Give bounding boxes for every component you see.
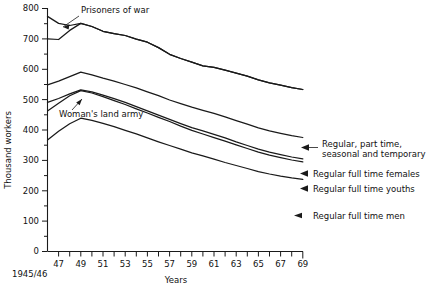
x-tick-label: 47 xyxy=(53,259,64,269)
series-line-regular-full-time-men xyxy=(48,118,303,179)
annotation-label-prisoners-of-war: Prisoners of war xyxy=(81,5,150,15)
callout-label-regular-full-time-men: Regular full time men xyxy=(313,211,405,221)
callout-regular-full-time-men: Regular full time men xyxy=(294,211,405,221)
x-tick-label: 69 xyxy=(297,259,308,269)
chart-plot-area: 0 100 200 300 400 500 600 700 800 xyxy=(0,0,431,292)
y-tick-label: 0 xyxy=(34,246,39,256)
y-tick-label: 400 xyxy=(23,125,39,135)
arrow-head-icon xyxy=(300,185,308,191)
callout-regular-full-time-youths: Regular full time youths xyxy=(300,184,415,194)
x-tick-label: 51 xyxy=(98,259,109,269)
y-tick-label: 500 xyxy=(23,95,39,105)
x-axis-title: Years xyxy=(164,275,188,285)
y-tick-label: 800 xyxy=(23,3,39,13)
arrow-head-icon xyxy=(294,213,302,218)
arrow-head-icon xyxy=(301,144,309,150)
series-line-total-upper xyxy=(48,16,303,89)
x-tick-label: 55 xyxy=(142,259,153,269)
series-line-excluding-pow xyxy=(48,23,303,89)
line-chart-agricultural-workers: 0 100 200 300 400 500 600 700 800 xyxy=(0,0,431,292)
annotation-label-womans-land-army: Woman's land army xyxy=(59,109,143,119)
y-tick-label: 600 xyxy=(23,64,39,74)
callout-label-regular-part-time-line1: Regular, part time, xyxy=(322,139,402,149)
callout-regular-part-time: Regular, part time, seasonal and tempora… xyxy=(301,139,426,159)
y-tick-label: 200 xyxy=(23,186,39,196)
annotation-womans-land-army: Woman's land army xyxy=(59,99,143,119)
x-tick-label: 53 xyxy=(120,259,131,269)
y-tick-label: 100 xyxy=(23,216,39,226)
callout-regular-full-time-females: Regular full time females xyxy=(300,169,420,179)
x-tick-label: 49 xyxy=(75,259,86,269)
arrow-head-icon xyxy=(300,170,308,176)
x-tick-label: 67 xyxy=(275,259,286,269)
callout-label-regular-full-time-youths: Regular full time youths xyxy=(313,184,415,194)
x-tick-label: 57 xyxy=(164,259,175,269)
x-axis-tick-labels: 47 49 51 53 55 57 59 61 63 65 67 69 xyxy=(53,259,308,269)
x-tick-label: 65 xyxy=(253,259,264,269)
callout-label-regular-part-time-line2: seasonal and temporary xyxy=(322,149,426,159)
x-tick-label: 61 xyxy=(209,259,220,269)
y-axis-tick-labels: 0 100 200 300 400 500 600 700 800 xyxy=(23,3,39,256)
y-tick-label: 700 xyxy=(23,34,39,44)
x-axis-origin-label: 1945/46 xyxy=(12,269,47,279)
x-tick-label: 59 xyxy=(186,259,197,269)
y-axis-major-ticks xyxy=(42,9,48,252)
x-tick-label: 63 xyxy=(231,259,242,269)
series-lines xyxy=(48,16,303,179)
x-axis-ticks xyxy=(59,252,303,259)
y-tick-label: 300 xyxy=(23,155,39,165)
callout-label-regular-full-time-females: Regular full time females xyxy=(313,169,420,179)
y-axis-title: Thousand workers xyxy=(3,111,13,190)
